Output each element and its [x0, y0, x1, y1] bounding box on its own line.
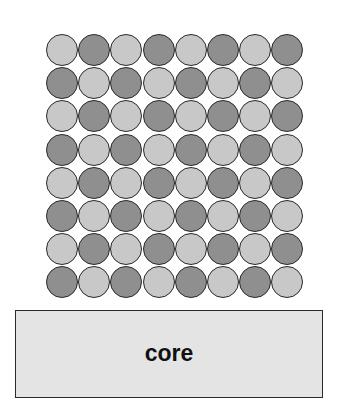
particle-dark	[110, 67, 142, 99]
particle-dark	[207, 167, 239, 199]
particle-dark	[78, 233, 110, 265]
particle-dark	[78, 167, 110, 199]
particle-dark	[175, 134, 207, 166]
particle-dark	[143, 233, 175, 265]
particle-light	[110, 100, 142, 132]
particle-light	[207, 266, 239, 298]
particle-light	[207, 134, 239, 166]
particle-grid	[46, 34, 304, 300]
particle-light	[175, 100, 207, 132]
particle-light	[143, 200, 175, 232]
particle-dark	[239, 200, 271, 232]
particle-dark	[46, 266, 78, 298]
particle-dark	[175, 200, 207, 232]
particle-dark	[271, 233, 303, 265]
particle-light	[110, 233, 142, 265]
particle-light	[175, 167, 207, 199]
particle-dark	[239, 266, 271, 298]
particle-dark	[271, 100, 303, 132]
particle-light	[239, 167, 271, 199]
particle-dark	[207, 34, 239, 66]
particle-light	[239, 34, 271, 66]
particle-dark	[175, 266, 207, 298]
particle-light	[271, 200, 303, 232]
particle-dark	[143, 34, 175, 66]
particle-dark	[110, 266, 142, 298]
particle-light	[175, 34, 207, 66]
particle-dark	[78, 100, 110, 132]
particle-light	[143, 266, 175, 298]
particle-dark	[239, 67, 271, 99]
particle-light	[46, 167, 78, 199]
core-label: core	[145, 340, 194, 367]
particle-dark	[78, 34, 110, 66]
particle-light	[46, 34, 78, 66]
particle-light	[78, 200, 110, 232]
particle-light	[207, 200, 239, 232]
particle-dark	[46, 134, 78, 166]
particle-light	[78, 134, 110, 166]
particle-dark	[46, 67, 78, 99]
core-box: core	[15, 310, 323, 398]
particle-light	[175, 233, 207, 265]
particle-dark	[46, 200, 78, 232]
particle-dark	[143, 100, 175, 132]
particle-light	[271, 266, 303, 298]
particle-dark	[175, 67, 207, 99]
particle-light	[110, 34, 142, 66]
particle-light	[207, 67, 239, 99]
particle-light	[46, 100, 78, 132]
particle-light	[143, 67, 175, 99]
particle-light	[239, 233, 271, 265]
particle-dark	[207, 233, 239, 265]
particle-dark	[207, 100, 239, 132]
particle-light	[239, 100, 271, 132]
particle-dark	[110, 200, 142, 232]
particle-dark	[110, 134, 142, 166]
particle-dark	[239, 134, 271, 166]
particle-light	[271, 134, 303, 166]
particle-dark	[271, 34, 303, 66]
particle-dark	[143, 167, 175, 199]
particle-light	[78, 266, 110, 298]
particle-light	[143, 134, 175, 166]
particle-light	[46, 233, 78, 265]
particle-light	[271, 67, 303, 99]
particle-light	[78, 67, 110, 99]
particle-dark	[271, 167, 303, 199]
particle-light	[110, 167, 142, 199]
